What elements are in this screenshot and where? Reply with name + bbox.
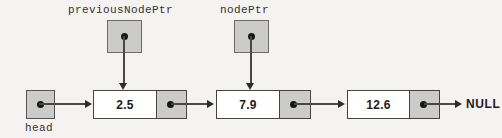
node-3-value: 12.6: [348, 91, 409, 118]
connector-arrowhead-node-3-to-null: [455, 100, 462, 108]
pointer-label-previous-node-ptr: previousNodePtr: [68, 4, 173, 16]
head-label: head: [25, 122, 53, 134]
connector-arrowhead-head-to-node-1: [85, 100, 92, 108]
connector-arrowhead-node-2-to-node-3: [338, 100, 345, 108]
connector-arrowhead-node-1-to-node-2: [207, 100, 214, 108]
pointer-label-node-ptr: nodePtr: [220, 4, 269, 16]
null-terminator-label: NULL: [466, 97, 500, 111]
connector-node-2-to-node-3: [294, 103, 339, 105]
connector-node-3-to-null: [424, 103, 456, 105]
pointer-arrowhead-node-ptr: [246, 83, 254, 90]
connector-node-1-to-node-2: [171, 103, 208, 105]
linked-list-diagram: previousNodePtr nodePtr head 2.5 7.9: [0, 0, 502, 138]
pointer-arrowhead-previous-node-ptr: [119, 83, 127, 90]
node-1-value: 2.5: [94, 91, 156, 118]
connector-head-to-node-1: [39, 103, 85, 105]
pointer-line-node-ptr: [250, 36, 252, 83]
pointer-line-previous-node-ptr: [123, 36, 125, 83]
node-2-value: 7.9: [217, 91, 279, 118]
